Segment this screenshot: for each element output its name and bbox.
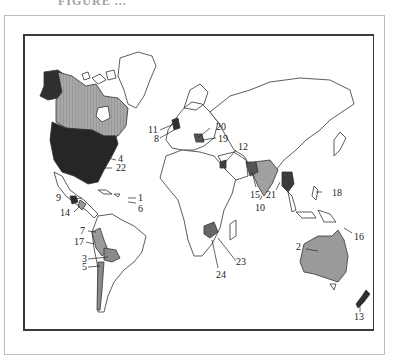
label-24: 24 [216,269,226,280]
label-14: 14 [60,207,70,218]
label-17: 17 [74,236,84,247]
australia-region [300,230,348,282]
canada-region [56,72,128,136]
label-18: 18 [332,187,342,198]
label-23: 23 [236,256,246,267]
label-11: 11 [148,124,158,135]
label-16: 16 [354,231,364,242]
label-7: 7 [80,225,85,236]
label-22: 22 [116,162,126,173]
label-20: 20 [216,121,226,132]
label-9: 9 [56,192,61,203]
greenland [118,52,156,108]
label-1: 1 [138,192,143,203]
label-5: 5 [82,261,87,272]
label-6: 6 [138,203,143,214]
new-zealand-region [356,290,370,308]
label-12: 12 [238,141,248,152]
label-21: 21 [266,189,276,200]
label-13: 13 [354,311,364,322]
label-2: 2 [296,241,301,252]
label-19: 19 [218,133,228,144]
label-10: 10 [255,202,265,213]
label-15: 15 [250,189,260,200]
